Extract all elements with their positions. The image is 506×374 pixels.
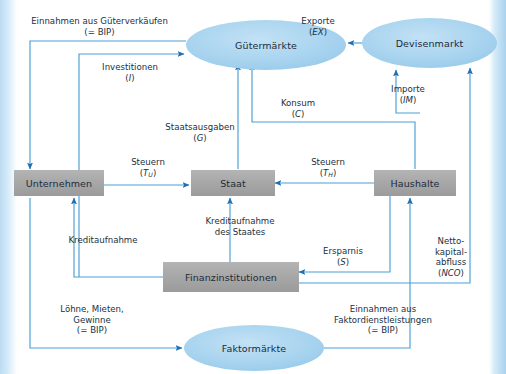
flow-line-2: Gewinne (36, 315, 148, 326)
flow-symbol: EX (312, 27, 323, 37)
flow-kreditaufnahme-label: Kreditaufnahme (43, 235, 163, 246)
flow-line-2: Faktordienstleistungen (308, 315, 458, 326)
flow-importe-label: Importe (IM) (368, 84, 448, 105)
flow-line-2: (S) (303, 257, 383, 268)
flow-steuern-unternehmen-label: Steuern (TU) (108, 157, 188, 180)
flow-line-1: Löhne, Mieten, (36, 304, 148, 315)
flow-line-1: Exporte (278, 16, 358, 27)
flow-loehne-mieten-gewinne-label: Löhne, Mieten, Gewinne (= BIP) (36, 304, 148, 336)
flow-line-1: Investitionen (75, 62, 185, 73)
flow-line-1: Ersparnis (303, 246, 383, 257)
flow-line-3: abfluss (420, 257, 482, 268)
arrow-einnahmen-gueterverkaeufe (30, 41, 186, 169)
node-staat-shape[interactable] (191, 170, 275, 196)
flow-kreditaufnahme-staates-label: Kreditaufnahme des Staates (180, 216, 300, 237)
flow-ersparnis-label: Ersparnis (S) (303, 246, 383, 267)
flow-line-4: (NCO) (420, 268, 482, 279)
flow-line-1: Einnahmen aus Güterverkäufen (12, 16, 187, 27)
flow-einnahmen-gueterverkaeufe-label: Einnahmen aus Güterverkäufen (= BIP) (12, 16, 187, 37)
flow-symbol: IM (403, 95, 413, 105)
flow-symbol: C (295, 109, 301, 119)
node-haushalte-shape[interactable] (374, 170, 456, 196)
flow-line-2: (I) (75, 73, 185, 84)
flow-line-2: (TH) (288, 168, 368, 181)
flow-symbol: S (340, 257, 345, 267)
flow-line-1: Kreditaufnahme (180, 216, 300, 227)
flow-line-2: des Staates (180, 227, 300, 238)
flow-line-3: (= BIP) (308, 325, 458, 336)
flow-einnahmen-faktordienstleistungen-label: Einnahmen aus Faktordienstleistungen (= … (308, 304, 458, 336)
flow-line-2: (C) (258, 109, 338, 120)
flow-line-1: Konsum (258, 98, 338, 109)
flow-steuern-haushalte-label: Steuern (TH) (288, 157, 368, 180)
flow-line-2: (IM) (368, 95, 448, 106)
flow-line-1: Steuern (288, 157, 368, 168)
flow-line-1: Kreditaufnahme (43, 235, 163, 246)
node-unternehmen-shape[interactable] (14, 170, 104, 196)
flow-line-1: Staatsausgaben (140, 122, 260, 133)
flow-line-2: (EX) (278, 27, 358, 38)
flow-symbol: NCO (441, 268, 460, 278)
flow-line-2: kapital- (420, 247, 482, 258)
node-faktormaerkte-shape[interactable] (184, 325, 324, 371)
node-devisenmarkt-shape[interactable] (362, 18, 497, 68)
flow-line-2: (G) (140, 133, 260, 144)
flow-line-2: (TU) (108, 168, 188, 181)
flow-line-1: Netto- (420, 236, 482, 247)
flow-exporte-label: Exporte (EX) (278, 16, 358, 37)
flow-line-1: Importe (368, 84, 448, 95)
flow-line-3: (= BIP) (36, 325, 148, 336)
flow-konsum-label: Konsum (C) (258, 98, 338, 119)
flow-symbol: I (129, 73, 132, 83)
flow-symbol: G (197, 133, 204, 143)
flow-line-1: Steuern (108, 157, 188, 168)
flow-staatsausgaben-label: Staatsausgaben (G) (140, 122, 260, 143)
flow-line-2: (= BIP) (12, 27, 187, 38)
flow-investitionen-label: Investitionen (I) (75, 62, 185, 83)
flow-subscript: U (148, 171, 153, 178)
flow-subscript: H (328, 171, 333, 178)
flow-line-1: Einnahmen aus (308, 304, 458, 315)
node-finanzinstitutionen-shape[interactable] (163, 262, 299, 292)
flow-nettokapitalabfluss-label: Netto- kapital- abfluss (NCO) (420, 236, 482, 278)
